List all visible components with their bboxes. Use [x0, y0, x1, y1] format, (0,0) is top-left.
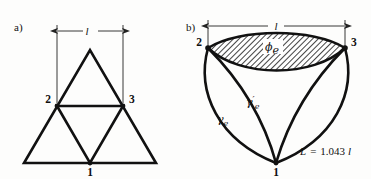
panel-b-node-2 — [205, 45, 211, 51]
panel-b-node-1 — [274, 161, 279, 166]
panel-a-node-3 — [121, 104, 126, 109]
panel-a-vertex-label-1: 1 — [87, 166, 93, 178]
panel-b-equation-coefficient: 1.043 — [320, 145, 345, 157]
panel-b-label: b) — [186, 21, 196, 34]
figure-container: a) l 2 3 1 b) — [0, 0, 371, 179]
panel-b-region-label-subscript: e — [273, 44, 280, 57]
panel-b: b) l 2 3 1 ϕe — [186, 20, 357, 178]
panel-b-equation-equals: = — [310, 145, 316, 157]
panel-b-equation-lhs: L — [299, 145, 306, 157]
panel-a: a) l 2 3 1 — [14, 21, 156, 178]
panel-b-inner-curve-subscript: e — [255, 102, 260, 111]
panel-a-vertex-label-2: 2 — [45, 93, 51, 105]
panel-b-vertex-label-2: 2 — [196, 36, 202, 48]
panel-a-node-1 — [88, 161, 93, 166]
panel-a-inner-inverted-triangle — [57, 106, 123, 163]
panel-b-equation-unit: l — [348, 145, 351, 157]
panel-a-node-2 — [55, 104, 60, 109]
panel-a-label: a) — [14, 21, 23, 34]
panel-b-vertex-label-3: 3 — [351, 36, 357, 48]
panel-b-dimension-label: l — [274, 20, 277, 32]
panel-b-vertex-label-1: 1 — [273, 166, 279, 178]
panel-b-outer-curve-subscript: e — [224, 119, 229, 128]
panel-a-dimension-label: l — [85, 25, 88, 37]
panel-a-vertex-label-3: 3 — [129, 93, 135, 105]
panel-b-outer-curve-label: γe — [217, 113, 229, 128]
panel-b-node-3 — [342, 45, 348, 51]
figure-svg: a) l 2 3 1 b) — [0, 0, 371, 179]
